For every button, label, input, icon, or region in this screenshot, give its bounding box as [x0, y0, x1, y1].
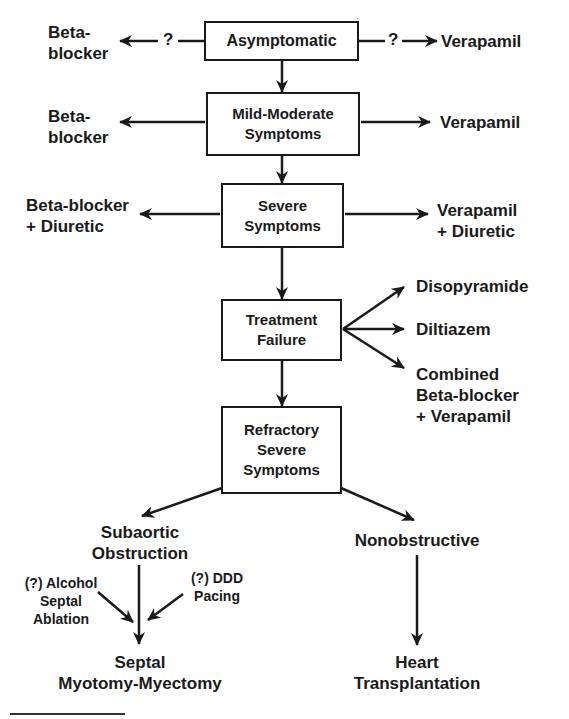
label-alcohol-septal-ablation: (?) Alcohol Septal Ablation — [18, 574, 104, 628]
label-beta-blocker-diuretic: Beta-blocker + Diuretic — [26, 195, 129, 237]
node-mild-moderate-symptoms: Mild-Moderate Symptoms — [206, 92, 360, 156]
footnote-divider — [10, 713, 125, 715]
uncertain-marker-left: ? — [163, 30, 173, 50]
uncertain-marker-right: ? — [388, 30, 398, 50]
label-beta-blocker-mild: Beta- blocker — [48, 106, 108, 148]
node-nonobstructive: Nonobstructive — [347, 530, 487, 551]
node-subaortic-obstruction: Subaortic Obstruction — [80, 522, 200, 564]
node-label: Mild-Moderate Symptoms — [232, 104, 334, 144]
label-disopyramide: Disopyramide — [416, 276, 528, 297]
node-asymptomatic: Asymptomatic — [204, 21, 359, 61]
node-heart-transplantation: Heart Transplantation — [337, 652, 497, 694]
node-refractory-severe-symptoms: Refractory Severe Symptoms — [221, 406, 342, 494]
label-verapamil-mild: Verapamil — [440, 112, 520, 133]
label-verapamil-diuretic: Verapamil + Diuretic — [437, 200, 517, 242]
label-verapamil-asymptomatic: Verapamil — [441, 31, 521, 52]
node-label: Asymptomatic — [226, 31, 336, 51]
node-label: Treatment Failure — [246, 310, 318, 350]
node-label: Refractory Severe Symptoms — [243, 420, 320, 480]
node-septal-myotomy-myectomy: Septal Myotomy-Myectomy — [40, 652, 240, 694]
node-severe-symptoms: Severe Symptoms — [221, 183, 344, 248]
label-combined-beta-blocker-verapamil: Combined Beta-blocker + Verapamil — [416, 364, 519, 427]
label-ddd-pacing: (?) DDD Pacing — [184, 569, 250, 605]
label-diltiazem: Diltiazem — [416, 319, 491, 340]
label-beta-blocker-asymptomatic: Beta- blocker — [48, 22, 108, 64]
node-label: Severe Symptoms — [244, 196, 321, 236]
node-treatment-failure: Treatment Failure — [221, 299, 342, 361]
